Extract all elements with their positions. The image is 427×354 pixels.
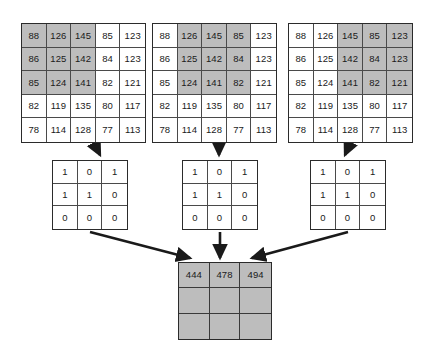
matrix-cell: 0 xyxy=(208,206,233,229)
matrix-cell: 80 xyxy=(96,95,121,119)
matrix-cell: 77 xyxy=(96,118,121,142)
matrix-cell: 1 xyxy=(311,161,336,184)
arrow-kernel3-to-output xyxy=(252,232,348,258)
convolution-diagram: 8812614585123861251428412385124141821218… xyxy=(0,0,427,354)
matrix-cell: 135 xyxy=(338,95,363,119)
matrix-cell: 1 xyxy=(232,161,257,184)
matrix-cell: 88 xyxy=(22,24,47,48)
matrix-cell: 82 xyxy=(363,71,388,95)
matrix-cell: 78 xyxy=(153,118,178,142)
matrix-cell: 113 xyxy=(387,118,412,142)
matrix-cell xyxy=(210,314,241,339)
matrix-cell: 77 xyxy=(227,118,252,142)
matrix-cell: 0 xyxy=(78,206,103,229)
matrix-cell: 0 xyxy=(208,161,233,184)
matrix-cell: 1 xyxy=(183,161,208,184)
matrix-cell: 0 xyxy=(232,184,257,207)
matrix-cell: 141 xyxy=(202,71,227,95)
input-matrix-window-2: 8812614585123861251428412385124141821218… xyxy=(152,23,277,143)
matrix-cell: 126 xyxy=(47,24,72,48)
matrix-cell: 85 xyxy=(289,71,314,95)
matrix-cell: 86 xyxy=(153,48,178,72)
kernel-2: 101110000 xyxy=(182,160,258,230)
matrix-cell: 142 xyxy=(71,48,96,72)
matrix-cell: 1 xyxy=(53,161,78,184)
matrix-cell: 117 xyxy=(251,95,276,119)
matrix-cell: 125 xyxy=(178,48,203,72)
matrix-cell: 119 xyxy=(314,95,339,119)
matrix-cell: 85 xyxy=(153,71,178,95)
matrix-cell: 0 xyxy=(102,184,127,207)
matrix-cell: 142 xyxy=(338,48,363,72)
matrix-cell: 123 xyxy=(387,48,412,72)
matrix-cell: 0 xyxy=(360,206,385,229)
kernel-3: 101110000 xyxy=(310,160,386,230)
matrix-cell: 142 xyxy=(202,48,227,72)
matrix-cell: 80 xyxy=(227,95,252,119)
matrix-cell: 82 xyxy=(22,95,47,119)
matrix-cell: 82 xyxy=(153,95,178,119)
matrix-cell: 0 xyxy=(102,206,127,229)
matrix-cell: 85 xyxy=(363,24,388,48)
matrix-cell: 1 xyxy=(208,184,233,207)
matrix-cell: 0 xyxy=(53,206,78,229)
matrix-cell: 125 xyxy=(314,48,339,72)
matrix-cell: 82 xyxy=(96,71,121,95)
matrix-cell: 1 xyxy=(183,184,208,207)
matrix-cell: 85 xyxy=(22,71,47,95)
matrix-cell: 145 xyxy=(71,24,96,48)
matrix-cell: 126 xyxy=(314,24,339,48)
matrix-cell: 123 xyxy=(387,24,412,48)
matrix-cell: 0 xyxy=(311,206,336,229)
matrix-cell: 124 xyxy=(178,71,203,95)
matrix-cell: 0 xyxy=(360,184,385,207)
matrix-cell: 80 xyxy=(363,95,388,119)
matrix-cell: 141 xyxy=(71,71,96,95)
matrix-cell: 123 xyxy=(120,48,145,72)
matrix-cell: 119 xyxy=(47,95,72,119)
matrix-cell: 0 xyxy=(78,161,103,184)
matrix-cell: 123 xyxy=(251,48,276,72)
matrix-cell: 119 xyxy=(178,95,203,119)
matrix-cell: 85 xyxy=(96,24,121,48)
matrix-cell: 141 xyxy=(338,71,363,95)
matrix-cell: 82 xyxy=(227,71,252,95)
matrix-cell: 1 xyxy=(78,184,103,207)
matrix-cell xyxy=(240,288,271,313)
matrix-cell: 135 xyxy=(202,95,227,119)
matrix-cell: 84 xyxy=(96,48,121,72)
matrix-cell: 78 xyxy=(289,118,314,142)
matrix-cell: 117 xyxy=(120,95,145,119)
arrow-kernel1-to-output xyxy=(90,232,190,258)
matrix-cell: 145 xyxy=(338,24,363,48)
kernel-1: 101110000 xyxy=(52,160,128,230)
matrix-cell: 113 xyxy=(251,118,276,142)
matrix-cell: 128 xyxy=(202,118,227,142)
matrix-cell: 1 xyxy=(336,184,361,207)
matrix-cell: 1 xyxy=(53,184,78,207)
matrix-cell: 0 xyxy=(336,206,361,229)
matrix-cell: 88 xyxy=(289,24,314,48)
matrix-cell xyxy=(179,288,210,313)
input-matrix-window-3: 8812614585123861251428412385124141821218… xyxy=(288,23,413,143)
matrix-cell: 494 xyxy=(240,263,271,288)
matrix-cell: 121 xyxy=(251,71,276,95)
matrix-cell: 84 xyxy=(363,48,388,72)
matrix-cell: 478 xyxy=(210,263,241,288)
matrix-cell: 1 xyxy=(311,184,336,207)
matrix-cell: 124 xyxy=(47,71,72,95)
matrix-cell: 88 xyxy=(153,24,178,48)
matrix-cell: 0 xyxy=(336,161,361,184)
matrix-cell xyxy=(240,314,271,339)
matrix-cell: 145 xyxy=(202,24,227,48)
matrix-cell: 128 xyxy=(71,118,96,142)
matrix-cell: 113 xyxy=(120,118,145,142)
matrix-cell: 82 xyxy=(289,95,314,119)
output-feature-map: 444478494 xyxy=(178,262,272,340)
matrix-cell: 123 xyxy=(251,24,276,48)
matrix-cell: 114 xyxy=(47,118,72,142)
matrix-cell: 123 xyxy=(120,24,145,48)
matrix-cell: 124 xyxy=(314,71,339,95)
matrix-cell: 1 xyxy=(360,161,385,184)
matrix-cell: 86 xyxy=(22,48,47,72)
